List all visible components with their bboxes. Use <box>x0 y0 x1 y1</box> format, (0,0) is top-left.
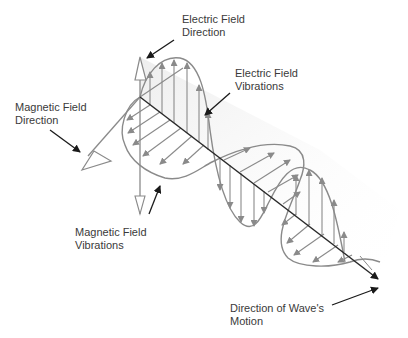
label-magnetic-field-vibrations: Magnetic Field Vibrations <box>75 226 147 252</box>
label-electric-field-direction: Electric Field Direction <box>182 13 245 39</box>
magnetic-vibrations-pointer-icon <box>149 186 160 214</box>
label-magnetic-field-direction: Magnetic Field Direction <box>15 101 87 127</box>
em-wave-diagram <box>0 0 408 338</box>
label-electric-field-vibrations: Electric Field Vibrations <box>235 67 298 93</box>
electric-direction-pointer-icon <box>147 40 174 58</box>
electric-field-direction-axis <box>135 57 146 214</box>
wave-motion-pointer-icon <box>332 288 378 305</box>
magnetic-direction-arrowhead-icon <box>82 151 111 170</box>
magnetic-direction-pointer-icon <box>50 130 80 152</box>
label-direction-of-wave-motion: Direction of Wave's Motion <box>230 302 324 328</box>
